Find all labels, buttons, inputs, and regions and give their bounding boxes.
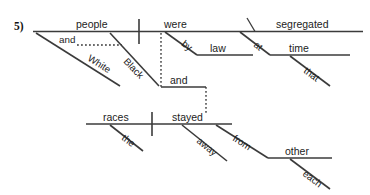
word-and-subject: and — [59, 34, 75, 45]
word-people: people — [76, 18, 108, 30]
word-and-clause: and — [170, 74, 188, 86]
word-were: were — [163, 18, 187, 30]
diagram-svg: 5) people were segregated and White Blac… — [0, 0, 370, 195]
exercise-number-label: 5) — [14, 20, 24, 33]
word-stayed: stayed — [172, 111, 203, 123]
modifier-slant-white — [36, 33, 120, 86]
word-races: races — [103, 111, 129, 123]
word-time: time — [289, 42, 309, 54]
word-by: by — [180, 38, 195, 53]
clause1-verb-complement-divider — [247, 18, 255, 32]
word-other: other — [285, 145, 309, 157]
word-black: Black — [122, 56, 147, 81]
word-each: each — [301, 168, 325, 190]
word-from: from — [231, 132, 253, 152]
word-away: away — [195, 135, 220, 158]
word-law: law — [210, 42, 226, 54]
word-segregated: segregated — [276, 18, 329, 30]
word-white: White — [86, 52, 114, 75]
sentence-diagram-canvas: 5) people were segregated and White Blac… — [0, 0, 370, 195]
modifier-slant-black — [110, 33, 159, 86]
